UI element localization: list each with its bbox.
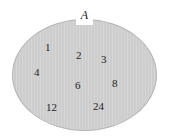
set-label-a: A	[76, 7, 93, 24]
set-diagram: A 1 2 3 4 6 8 12 24	[0, 0, 169, 140]
set-member: 6	[75, 79, 81, 91]
set-member: 24	[93, 100, 104, 112]
set-member: 2	[76, 49, 82, 61]
set-member: 12	[46, 101, 57, 113]
set-member: 4	[34, 66, 40, 78]
set-member: 1	[45, 41, 51, 53]
set-member: 3	[101, 53, 107, 65]
set-member: 8	[112, 77, 118, 89]
